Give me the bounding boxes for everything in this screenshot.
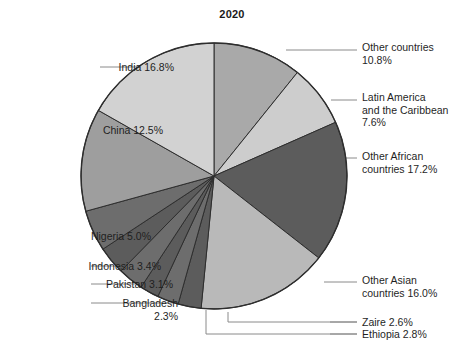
pie-chart-figure: 2020 Other countries 10.8% Latin America… xyxy=(0,0,464,354)
slice-label-ethiopia: Ethiopia 2.8% xyxy=(362,328,462,341)
leader-line-zaire-elbow xyxy=(228,312,357,322)
slice-label-latin-america: Latin America and the Caribbean 7.6% xyxy=(362,91,464,129)
slice-label-china: China 12.5% xyxy=(8,124,163,137)
slice-label-pakistan: Pakistan 3.1% xyxy=(2,278,173,291)
slice-label-other-african: Other African countries 17.2% xyxy=(362,150,462,175)
slice-label-other-asian: Other Asian countries 16.0% xyxy=(362,274,462,299)
slice-label-indonesia: Indonesia 3.4% xyxy=(2,260,161,273)
slice-label-nigeria: Nigeria 5.0% xyxy=(8,230,151,243)
slice-label-india: India 16.8% xyxy=(18,61,174,74)
slice-label-zaire: Zaire 2.6% xyxy=(362,316,462,329)
slice-label-other-countries: Other countries 10.8% xyxy=(362,41,462,66)
slice-label-bangladesh: Bangladesh 2.3% xyxy=(2,297,178,322)
